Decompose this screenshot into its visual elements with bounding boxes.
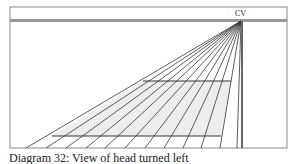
- horizon-line: [10, 19, 287, 22]
- perspective-diagram: CV: [0, 0, 295, 164]
- cv-label: CV: [235, 9, 246, 18]
- figure-caption: Diagram 32: View of head turned left: [9, 151, 189, 164]
